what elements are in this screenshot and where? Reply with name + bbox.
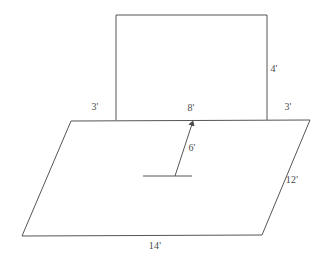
label-height-4ft: 4' [270,64,277,74]
figure-canvas [0,0,324,264]
label-base-14ft: 14' [149,241,161,251]
label-arrow-6ft: 6' [188,143,195,153]
label-left-3ft: 3' [91,102,98,112]
geometry-figure: 3' 3' 8' 4' 6' 12' 14' [0,0,324,264]
label-side-12ft: 12' [286,175,298,185]
label-right-3ft: 3' [284,102,291,112]
base-parallelogram [22,120,310,236]
label-top-8ft: 8' [187,103,194,113]
